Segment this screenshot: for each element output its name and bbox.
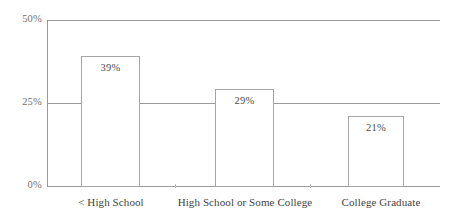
y-tick-label-25: 25% <box>8 96 42 107</box>
x-tick-mark-1 <box>175 184 176 188</box>
bar-less-than-high-school <box>81 56 140 187</box>
y-tick-label-50: 50% <box>8 13 42 24</box>
bar-chart: 50% 25% 0% 39% 29% 21% < High School Hig… <box>0 0 449 219</box>
bar-value-less-than-high-school: 39% <box>81 62 140 73</box>
x-tick-label-college-graduate: College Graduate <box>321 196 441 208</box>
x-tick-label-less-than-high-school: < High School <box>51 196 171 208</box>
bar-value-high-school-or-some-college: 29% <box>215 95 274 106</box>
bar-value-college-graduate: 21% <box>348 122 404 133</box>
x-tick-label-high-school-or-some-college: High School or Some College <box>168 196 322 208</box>
y-axis-line <box>47 20 48 187</box>
y-tick-label-0: 0% <box>8 179 42 190</box>
x-tick-mark-2 <box>310 184 311 188</box>
gridline-50 <box>47 20 440 21</box>
